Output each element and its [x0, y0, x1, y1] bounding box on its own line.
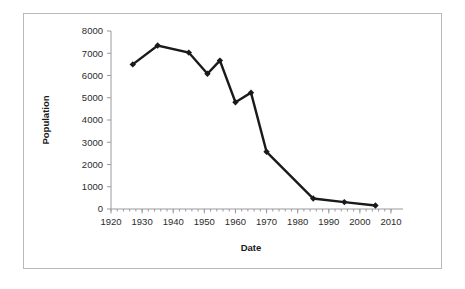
chart-frame: 010002000300040005000600070008000 192019…	[23, 13, 442, 269]
x-tick-label: 1980	[287, 216, 308, 227]
y-tick-label: 3000	[82, 137, 103, 148]
x-axis-tick-labels: 1920193019401950196019701980199020002010	[100, 216, 401, 227]
x-tick-label: 2010	[380, 216, 401, 227]
y-tick-label: 5000	[82, 92, 103, 103]
x-tick-label: 1920	[100, 216, 121, 227]
data-series-group	[130, 42, 379, 208]
y-axis-title: Population	[40, 95, 51, 144]
series-line	[133, 45, 376, 205]
x-tick-label: 1970	[256, 216, 277, 227]
chart-axes	[107, 31, 403, 214]
y-tick-label: 0	[98, 203, 103, 214]
line-chart-plot: 010002000300040005000600070008000 192019…	[24, 14, 441, 268]
y-axis-tick-labels: 010002000300040005000600070008000	[82, 25, 103, 214]
x-tick-label: 2000	[349, 216, 370, 227]
y-tick-label: 6000	[82, 70, 103, 81]
x-axis-title: Date	[241, 242, 262, 253]
y-tick-label: 7000	[82, 48, 103, 59]
series-data-point	[372, 202, 378, 208]
x-tick-label: 1960	[225, 216, 246, 227]
x-tick-label: 1940	[163, 216, 184, 227]
y-tick-label: 4000	[82, 114, 103, 125]
series-data-point	[341, 199, 347, 205]
y-tick-label: 1000	[82, 181, 103, 192]
y-tick-label: 8000	[82, 25, 103, 36]
x-tick-label: 1990	[318, 216, 339, 227]
chart-figure: 010002000300040005000600070008000 192019…	[0, 0, 465, 289]
x-tick-label: 1930	[132, 216, 153, 227]
y-tick-label: 2000	[82, 159, 103, 170]
x-tick-label: 1950	[194, 216, 215, 227]
